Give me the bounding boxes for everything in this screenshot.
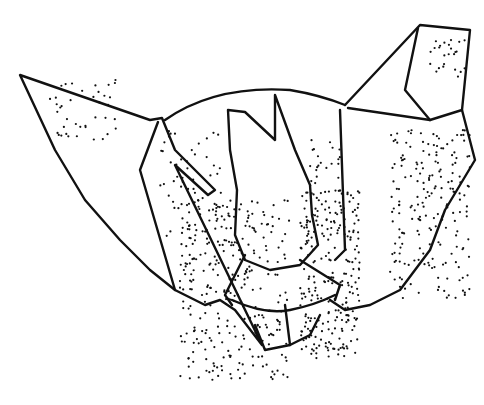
moon-circle — [165, 89, 345, 120]
right-wing — [330, 25, 475, 310]
bat-drawing — [0, 0, 484, 405]
bat-body — [225, 95, 340, 350]
left-wing — [20, 75, 262, 345]
